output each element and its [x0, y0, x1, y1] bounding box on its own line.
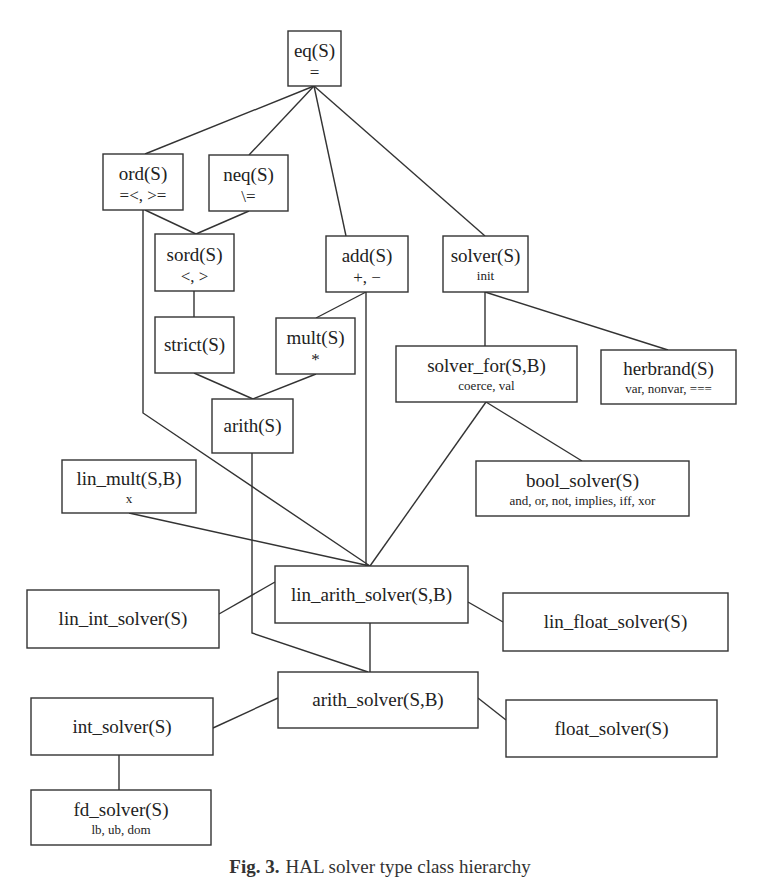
node-operations: var, nonvar, === — [625, 381, 712, 396]
edge-mult-to-arith — [253, 374, 316, 399]
node-arith-solver: arith_solver(S,B) — [278, 672, 478, 728]
nodes: eq(S)=ord(S)=<, >=neq(S)\=sord(S)<, >add… — [27, 31, 736, 845]
node-lin-mult: lin_mult(S,B)x — [62, 460, 196, 513]
caption-text: HAL solver type class hierarchy — [285, 856, 530, 877]
node-herbrand: herbrand(S)var, nonvar, === — [601, 350, 736, 404]
node-operations: * — [311, 350, 320, 369]
node-operations: <, > — [181, 267, 209, 286]
node-add: add(S)+, − — [326, 236, 408, 292]
edge-eq-to-ord — [145, 86, 314, 154]
caption-label: Fig. 3. — [229, 856, 279, 877]
node-name: herbrand(S) — [623, 358, 714, 380]
node-name: sord(S) — [167, 244, 223, 266]
node-name: float_solver(S) — [555, 718, 669, 740]
node-name: arith(S) — [223, 415, 281, 437]
edge-arith-solver-to-float-solver — [478, 698, 506, 720]
edge-neq-to-sord — [196, 211, 249, 234]
node-operations: = — [310, 63, 320, 82]
node-solver-for: solver_for(S,B)coerce, val — [396, 346, 577, 402]
node-ord: ord(S)=<, >= — [103, 154, 183, 210]
edge-eq-to-solver — [314, 86, 485, 236]
edge-lin-mult-to-lin-arith-solver — [129, 513, 370, 566]
node-name: strict(S) — [164, 334, 225, 356]
node-int-solver: int_solver(S) — [31, 698, 213, 755]
node-name: lin_float_solver(S) — [544, 611, 688, 633]
node-name: add(S) — [342, 245, 393, 267]
node-name: lin_int_solver(S) — [59, 608, 188, 630]
edge-eq-to-neq — [249, 86, 314, 155]
node-name: arith_solver(S,B) — [312, 689, 443, 711]
node-name: eq(S) — [294, 40, 335, 62]
node-lin-float-solver: lin_float_solver(S) — [503, 593, 728, 651]
node-neq: neq(S)\= — [209, 155, 288, 211]
node-arith: arith(S) — [212, 399, 293, 453]
node-operations: init — [477, 268, 495, 283]
node-lin-arith-solver: lin_arith_solver(S,B) — [275, 566, 468, 623]
node-solver: solver(S)init — [443, 236, 528, 292]
node-name: lin_arith_solver(S,B) — [291, 584, 452, 606]
node-operations: coerce, val — [458, 378, 515, 393]
node-name: lin_mult(S,B) — [76, 468, 181, 490]
node-sord: sord(S)<, > — [155, 234, 234, 291]
node-bool-solver: bool_solver(S)and, or, not, implies, iff… — [476, 461, 689, 516]
node-strict: strict(S) — [155, 317, 234, 373]
node-eq: eq(S)= — [288, 31, 341, 86]
edge-arith-solver-to-int-solver — [213, 698, 278, 728]
edge-ord-to-sord — [145, 210, 196, 234]
edge-solver-for-to-lin-arith-solver — [370, 402, 486, 566]
node-operations: +, − — [353, 268, 381, 287]
node-operations: \= — [241, 187, 255, 206]
node-name: ord(S) — [119, 163, 168, 185]
node-operations: and, or, not, implies, iff, xor — [510, 493, 657, 508]
edge-strict-to-arith — [194, 373, 253, 399]
node-operations: =<, >= — [120, 186, 167, 205]
node-name: mult(S) — [286, 327, 344, 349]
node-name: int_solver(S) — [72, 716, 171, 738]
node-operations: lb, ub, dom — [91, 822, 150, 837]
edge-arith-to-arith-solver — [252, 453, 368, 672]
edge-lin-arith-solver-to-lin-float-solver — [468, 602, 503, 622]
node-mult: mult(S)* — [276, 318, 355, 374]
node-name: bool_solver(S) — [526, 470, 639, 492]
edge-lin-arith-solver-to-lin-int-solver — [219, 582, 275, 614]
figure-caption: Fig. 3.HAL solver type class hierarchy — [0, 856, 760, 878]
edge-solver-for-to-bool-solver — [486, 402, 582, 461]
node-fd-solver: fd_solver(S)lb, ub, dom — [31, 790, 211, 845]
node-name: neq(S) — [223, 164, 274, 186]
edge-add-to-mult — [316, 292, 366, 318]
node-operations: x — [126, 491, 133, 506]
node-lin-int-solver: lin_int_solver(S) — [27, 590, 219, 648]
node-float-solver: float_solver(S) — [506, 700, 717, 757]
node-name: solver_for(S,B) — [427, 355, 546, 377]
node-name: fd_solver(S) — [74, 799, 169, 821]
edge-solver-to-herbrand — [485, 292, 668, 350]
edge-eq-to-add — [314, 86, 346, 236]
node-name: solver(S) — [451, 245, 521, 267]
